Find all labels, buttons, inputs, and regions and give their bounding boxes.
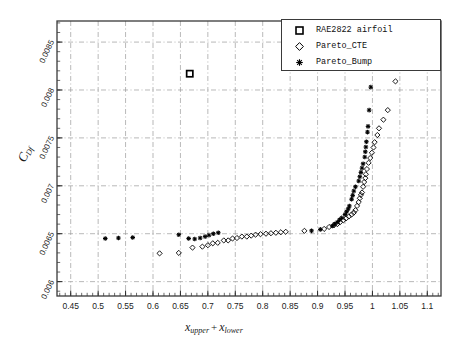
x-axis-label-sub1: upper [190, 326, 209, 335]
legend-label-pareto-cte: Pareto_CTE [316, 41, 367, 51]
legend-item-pareto-bump: Pareto_Bump [282, 54, 440, 70]
square-marker-icon [282, 25, 316, 36]
diamond-marker-icon [282, 41, 316, 52]
legend-item-pareto-cte: Pareto_CTE [282, 38, 440, 54]
legend-label-rae2822: RAE2822 airfoil [316, 25, 393, 35]
asterisk-marker-icon [282, 57, 316, 68]
x-axis-label-sub2: lower [225, 326, 243, 335]
legend-label-pareto-bump: Pareto_Bump [316, 57, 372, 67]
legend-item-rae2822: RAE2822 airfoil [282, 22, 440, 38]
series-square [187, 71, 193, 77]
chart-legend: RAE2822 airfoil Pareto_CTE Pareto_Bump [281, 19, 441, 71]
x-axis-label-plus: + [209, 321, 219, 333]
x-axis-label: xupper+xlower [185, 320, 243, 335]
x-tick-label: 1.1 [411, 301, 443, 311]
chart-figure: CDf xupper+xlower RAE2822 airfoil Pareto… [0, 0, 461, 347]
series-asterisk [103, 85, 373, 241]
